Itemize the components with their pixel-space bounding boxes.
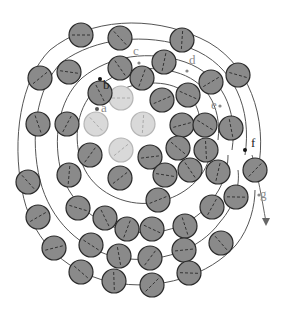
- dark-particle: [107, 244, 131, 268]
- dark-particle: [243, 158, 267, 182]
- arrow-head-icon: [262, 218, 270, 226]
- dark-particle: [150, 88, 174, 112]
- dark-particle: [26, 112, 50, 136]
- dark-particle: [152, 50, 176, 74]
- dark-particle: [209, 231, 233, 255]
- dark-particle: [66, 196, 90, 220]
- dark-particle: [172, 238, 196, 262]
- marker-b: [98, 77, 102, 81]
- dark-particle: [170, 28, 194, 52]
- dark-particle: [93, 206, 117, 230]
- label-d: d: [189, 53, 196, 66]
- label-c: c: [133, 44, 139, 57]
- dark-particle: [78, 143, 102, 167]
- dark-particle: [219, 116, 243, 140]
- dark-particle: [16, 170, 40, 194]
- dark-particle: [226, 63, 250, 87]
- spiral-packing-diagram: [0, 0, 286, 314]
- marker-c: [137, 61, 140, 64]
- dark-particle: [108, 166, 132, 190]
- dark-particle: [108, 56, 132, 80]
- light-particle: [84, 112, 108, 136]
- dark-particle: [153, 163, 177, 187]
- dark-particle: [200, 195, 224, 219]
- dark-particle: [199, 70, 223, 94]
- label-f: f: [251, 136, 255, 149]
- marker-d: [185, 69, 188, 72]
- light-particle: [109, 138, 133, 162]
- dark-particle: [57, 163, 81, 187]
- dark-particle: [206, 160, 230, 184]
- dark-particle: [28, 66, 52, 90]
- dark-particle: [166, 136, 190, 160]
- marker-a: [95, 107, 99, 111]
- dark-particle: [55, 112, 79, 136]
- marker-e: [218, 104, 221, 107]
- dark-particle: [79, 233, 103, 257]
- dark-particle: [193, 113, 217, 137]
- dark-particle: [173, 214, 197, 238]
- label-b: b: [103, 78, 110, 91]
- dark-particle: [115, 217, 139, 241]
- dark-particle: [26, 205, 50, 229]
- light-particle: [131, 112, 155, 136]
- dark-particle: [178, 158, 202, 182]
- dark-particle: [140, 217, 164, 241]
- dark-particle: [130, 66, 154, 90]
- dark-particles: [16, 23, 267, 297]
- label-e: e: [211, 98, 217, 111]
- marker-f: [243, 148, 247, 152]
- dark-particle: [140, 273, 164, 297]
- label-a: a: [101, 101, 107, 114]
- dark-particle: [42, 236, 66, 260]
- dark-particle: [57, 60, 81, 84]
- label-g: g: [260, 187, 267, 200]
- dark-particle: [176, 83, 200, 107]
- dark-particle: [108, 26, 132, 50]
- dark-particle: [138, 246, 162, 270]
- dark-particle: [146, 188, 170, 212]
- dark-particle: [69, 260, 93, 284]
- dark-particle: [170, 113, 194, 137]
